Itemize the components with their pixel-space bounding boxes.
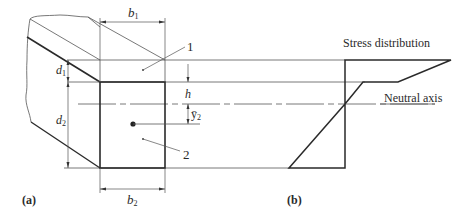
panel-b-label: (b) — [287, 194, 302, 206]
b2-label: b2 — [127, 193, 138, 208]
panel-a-label: (a) — [22, 194, 36, 206]
stress-distribution-title: Stress distribution — [343, 37, 430, 49]
part2-label: 2 — [183, 148, 190, 161]
composite-section-diagram — [0, 0, 475, 215]
stress-diagram-bottom — [289, 104, 345, 168]
rib-side-edge — [31, 122, 100, 168]
b1-label: b1 — [128, 6, 139, 21]
h-label: h — [185, 88, 191, 100]
part1-label: 1 — [187, 40, 194, 53]
slab-top-edge-2 — [88, 17, 165, 60]
neutral-axis-label: Neutral axis — [384, 92, 442, 104]
d1-label: d1 — [56, 64, 66, 78]
ybar2-label: ȳ2 — [191, 108, 201, 122]
d2-label: d2 — [56, 114, 66, 128]
slab-top-edge — [30, 19, 100, 60]
part2-leader — [143, 139, 180, 151]
part1-leader — [143, 47, 185, 70]
